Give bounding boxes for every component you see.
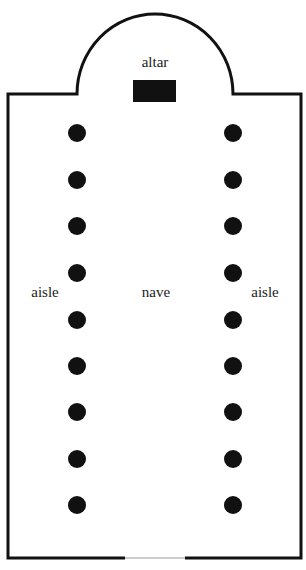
- column-icon: [68, 357, 86, 375]
- basilica-floor-plan: altar aisle nave aisle: [0, 0, 306, 570]
- nave-label: nave: [142, 284, 171, 300]
- left-colonnade: [68, 124, 86, 514]
- column-icon: [224, 311, 242, 329]
- column-icon: [68, 264, 86, 282]
- column-icon: [224, 171, 242, 189]
- column-icon: [224, 403, 242, 421]
- altar-block: [133, 80, 176, 102]
- column-icon: [224, 124, 242, 142]
- column-icon: [224, 357, 242, 375]
- column-icon: [68, 450, 86, 468]
- column-icon: [68, 171, 86, 189]
- altar-label: altar: [142, 54, 169, 70]
- column-icon: [68, 311, 86, 329]
- column-icon: [68, 496, 86, 514]
- column-icon: [224, 496, 242, 514]
- aisle-left-label: aisle: [31, 284, 59, 300]
- column-icon: [68, 403, 86, 421]
- column-icon: [68, 124, 86, 142]
- column-icon: [224, 217, 242, 235]
- column-icon: [68, 217, 86, 235]
- column-icon: [224, 264, 242, 282]
- right-colonnade: [224, 124, 242, 514]
- column-icon: [224, 450, 242, 468]
- aisle-right-label: aisle: [251, 284, 279, 300]
